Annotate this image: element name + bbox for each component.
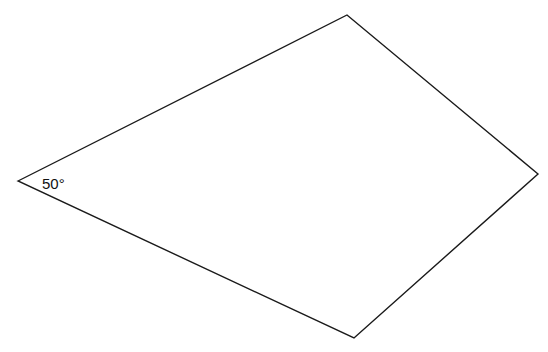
- quadrilateral-shape: [18, 15, 538, 338]
- angle-label: 50°: [42, 175, 65, 192]
- quadrilateral-diagram: 50°: [0, 0, 548, 352]
